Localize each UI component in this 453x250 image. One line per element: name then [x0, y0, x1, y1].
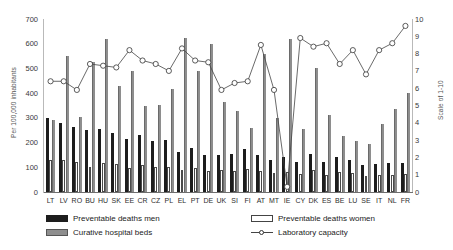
- laboratory-capacity-marker: [140, 58, 145, 63]
- y-axis-left-tick: 0: [0, 188, 38, 197]
- y-axis-right-tick: 8: [415, 49, 429, 58]
- y-axis-left-tick: 700: [0, 15, 38, 24]
- x-axis-line: [44, 192, 413, 193]
- laboratory-capacity-marker: [403, 23, 408, 28]
- y-axis-right-tick: 3: [415, 136, 429, 145]
- plot-area: [44, 19, 412, 192]
- laboratory-capacity-markers: [48, 23, 408, 189]
- x-axis-label: FR: [396, 196, 415, 206]
- y-axis-right-tick: 2: [415, 153, 429, 162]
- chart-container: Per 100,000 inhabitants Scale of 1-10 01…: [0, 0, 453, 250]
- legend-label: Preventable deaths women: [278, 214, 375, 223]
- laboratory-capacity-marker: [363, 72, 368, 77]
- y-axis-right-ticks: 012345678910: [415, 0, 431, 250]
- x-axis-labels: LTLVROBUHUSKEECRCZPLELPTDEUKSIFIATMTIECY…: [44, 196, 412, 208]
- y-axis-left-tick: 100: [0, 163, 38, 172]
- laboratory-capacity-marker: [377, 48, 382, 53]
- laboratory-capacity-marker: [166, 68, 171, 73]
- laboratory-capacity-marker: [153, 61, 158, 66]
- laboratory-capacity-marker: [285, 184, 290, 189]
- laboratory-capacity-marker: [87, 61, 92, 66]
- laboratory-capacity-marker: [114, 65, 119, 70]
- chart-legend: Preventable deaths men Preventable death…: [46, 214, 436, 246]
- laboratory-capacity-marker: [258, 42, 263, 47]
- laboratory-capacity-marker: [245, 79, 250, 84]
- laboratory-capacity-marker: [48, 79, 53, 84]
- legend-label: Laboratory capacity: [278, 228, 348, 237]
- legend-label: Curative hospital beds: [73, 228, 152, 237]
- y-axis-left-ticks: 0100200300400500600700: [0, 0, 38, 250]
- laboratory-capacity-marker: [127, 48, 132, 53]
- laboratory-capacity-line: [44, 19, 412, 192]
- legend-item-laboratory-capacity: Laboratory capacity: [251, 228, 348, 237]
- laboratory-capacity-marker: [324, 41, 329, 46]
- legend-item-preventable-deaths-women: Preventable deaths women: [251, 214, 375, 223]
- solid-grey-swatch-icon: [46, 229, 68, 236]
- y-axis-right-tick: 7: [415, 66, 429, 75]
- y-axis-right-tick: 1: [415, 170, 429, 179]
- laboratory-capacity-marker: [179, 46, 184, 51]
- legend-item-curative-hospital-beds: Curative hospital beds: [46, 228, 152, 237]
- laboratory-capacity-marker: [298, 35, 303, 40]
- laboratory-capacity-marker: [193, 58, 198, 63]
- y-axis-left-tick: 300: [0, 113, 38, 122]
- y-axis-left-tick: 200: [0, 138, 38, 147]
- laboratory-capacity-marker: [232, 80, 237, 85]
- y-axis-right-line: [412, 19, 413, 193]
- laboratory-capacity-marker: [206, 60, 211, 65]
- solid-dark-swatch-icon: [46, 215, 68, 222]
- y-axis-right-tick: 5: [415, 101, 429, 110]
- y-axis-right-tick: 10: [415, 15, 429, 24]
- laboratory-capacity-marker: [219, 87, 224, 92]
- laboratory-capacity-marker: [74, 87, 79, 92]
- laboratory-capacity-marker: [61, 79, 66, 84]
- y-axis-left-tick: 500: [0, 64, 38, 73]
- y-axis-left-tick: 600: [0, 39, 38, 48]
- legend-item-preventable-deaths-men: Preventable deaths men: [46, 214, 160, 223]
- laboratory-capacity-marker: [337, 61, 342, 66]
- y-axis-left-tick: 400: [0, 89, 38, 98]
- laboratory-capacity-marker: [311, 44, 316, 49]
- laboratory-capacity-marker: [350, 48, 355, 53]
- y-axis-right-tick: 6: [415, 84, 429, 93]
- y-axis-right-tick: 9: [415, 32, 429, 41]
- y-axis-right-tick: 4: [415, 118, 429, 127]
- outline-white-swatch-icon: [251, 215, 273, 222]
- line-with-circle-marker-icon: [251, 229, 273, 236]
- laboratory-capacity-marker: [390, 41, 395, 46]
- legend-label: Preventable deaths men: [73, 214, 160, 223]
- y-axis-right-tick: 0: [415, 188, 429, 197]
- y-axis-right-title: Scale of 1-10: [437, 80, 444, 120]
- laboratory-capacity-marker: [271, 87, 276, 92]
- laboratory-capacity-marker: [101, 63, 106, 68]
